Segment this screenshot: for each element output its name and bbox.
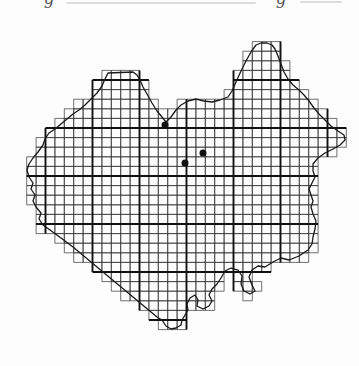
occurrence-dot <box>200 150 207 157</box>
occurrence-dot <box>182 160 189 167</box>
scanned-page: g g <box>0 0 359 366</box>
occurrence-dot <box>162 122 169 129</box>
grid-distribution-map <box>0 0 359 366</box>
